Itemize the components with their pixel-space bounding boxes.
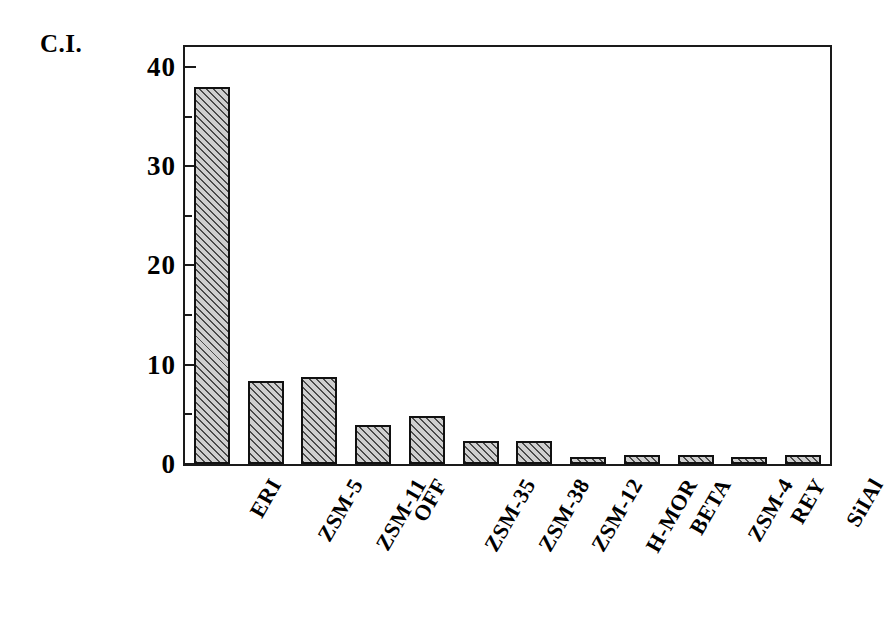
- bar-series-group: [185, 47, 830, 464]
- x-axis-tick-label: SiIAl: [841, 474, 888, 532]
- x-axis-tick-label-group: ERIZSM-5ZSM-11OFFZSM-35ZSM-38ZSM-12H-MOR…: [185, 466, 830, 606]
- bar: [678, 455, 714, 464]
- bar: [731, 457, 767, 464]
- x-axis-tick-label: ZSM-5: [312, 474, 369, 546]
- bar: [570, 457, 606, 464]
- y-axis-title: C.I.: [40, 30, 82, 58]
- x-axis-tick-label: ZSM-38: [533, 474, 596, 556]
- y-axis-tick-label: 40: [106, 53, 176, 80]
- x-axis-tick-label: ZSM-35: [479, 474, 542, 556]
- bar: [785, 455, 821, 464]
- bar: [516, 441, 552, 464]
- y-axis-tick-label: 10: [106, 351, 176, 378]
- y-axis-tick-label-group: 010203040: [100, 45, 176, 466]
- bar: [248, 381, 284, 464]
- bar: [409, 416, 445, 464]
- bar: [355, 425, 391, 464]
- x-axis-tick-label: ERI: [244, 474, 287, 522]
- bar: [463, 441, 499, 464]
- bar: [301, 377, 337, 464]
- y-axis-tick-label: 20: [106, 252, 176, 279]
- bar: [194, 87, 230, 464]
- y-axis-tick-label: 30: [106, 153, 176, 180]
- bar: [624, 455, 660, 464]
- y-axis-tick-label: 0: [106, 451, 176, 478]
